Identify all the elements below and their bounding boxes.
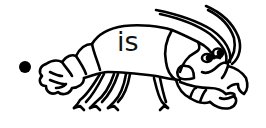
word-label: is [117, 28, 139, 55]
crayfish-icon [0, 0, 266, 128]
worksheet-card: is [0, 0, 266, 128]
